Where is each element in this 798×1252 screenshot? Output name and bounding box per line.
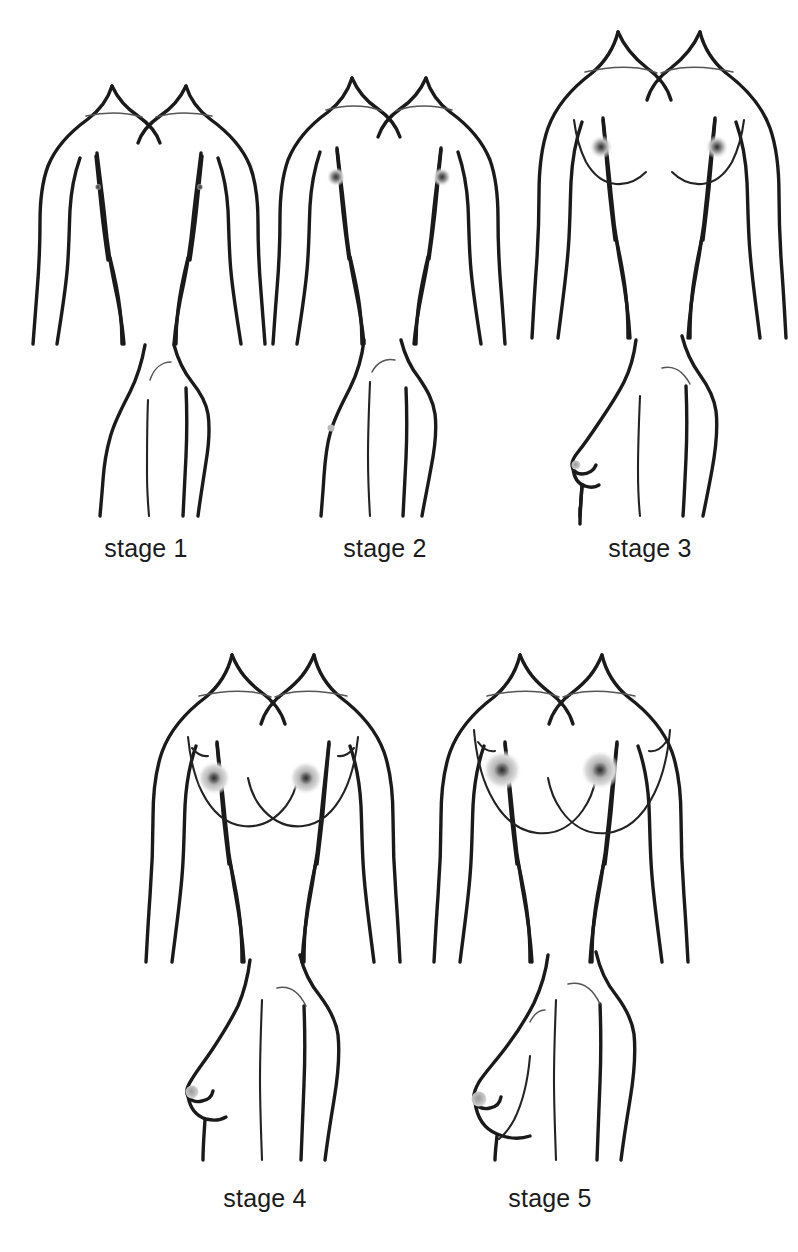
stage-5-label: stage 5 [508,1184,591,1212]
stage-4-label: stage 4 [223,1184,306,1212]
nipple-left [327,168,346,187]
diagram-canvas: stage 1 stage 2 stage 3 [0,0,798,1252]
stage-1-label: stage 1 [104,534,187,562]
nipple-right [196,183,203,190]
nipple-right [705,135,729,159]
side-nipple [328,425,335,432]
diagram-background [0,0,798,1252]
tanner-stage-diagram: stage 1 stage 2 stage 3 [0,0,798,1252]
nipple-right [289,761,323,795]
stage-2-label: stage 2 [343,534,426,562]
stage-3-label: stage 3 [608,534,691,562]
nipple-left [197,761,231,795]
nipple-right [580,750,620,790]
nipple-right [433,168,452,187]
side-nipple [472,1092,487,1107]
side-nipple [572,461,581,470]
nipple-left [482,750,522,790]
side-nipple [186,1086,199,1099]
nipple-left [94,183,101,190]
nipple-left [589,135,613,159]
